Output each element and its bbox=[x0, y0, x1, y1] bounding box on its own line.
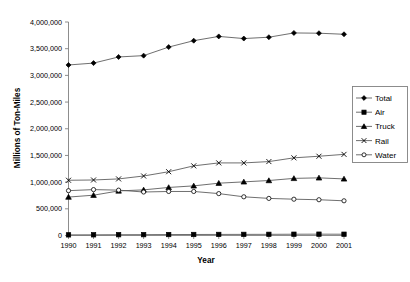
data-point-circle bbox=[167, 189, 171, 193]
x-tick-label: 1995 bbox=[186, 241, 202, 250]
data-point-square bbox=[91, 233, 95, 237]
y-tick-label: 1,000,000 bbox=[30, 178, 62, 187]
y-tick-label: 1,500,000 bbox=[30, 151, 62, 160]
data-point-circle bbox=[142, 190, 146, 194]
legend-label: Air bbox=[375, 108, 385, 117]
y-tick-label: 4,000,000 bbox=[30, 18, 62, 27]
data-point-square bbox=[292, 232, 296, 236]
data-point-square bbox=[362, 110, 366, 114]
legend-label: Truck bbox=[375, 122, 396, 131]
data-point-circle bbox=[242, 195, 246, 199]
data-point-square bbox=[141, 232, 145, 236]
x-tick-label: 1990 bbox=[61, 241, 77, 250]
y-tick-label: 3,500,000 bbox=[30, 44, 62, 53]
data-point-square bbox=[66, 233, 70, 237]
y-tick-label: 0 bbox=[58, 231, 62, 240]
data-point-square bbox=[116, 232, 120, 236]
line-chart: 0500,0001,000,0001,500,0002,000,0002,500… bbox=[0, 0, 410, 282]
x-tick-label: 1997 bbox=[236, 241, 252, 250]
data-point-circle bbox=[317, 198, 321, 202]
data-point-square bbox=[267, 232, 271, 236]
data-point-square bbox=[217, 232, 221, 236]
legend-label: Total bbox=[375, 94, 392, 103]
y-tick-label: 500,000 bbox=[36, 204, 62, 213]
y-tick-label: 2,000,000 bbox=[30, 124, 62, 133]
x-tick-label: 1999 bbox=[286, 241, 302, 250]
x-tick-label: 2000 bbox=[311, 241, 327, 250]
data-point-square bbox=[192, 232, 196, 236]
legend-label: Water bbox=[375, 151, 396, 160]
data-point-square bbox=[317, 232, 321, 236]
x-tick-label: 1996 bbox=[211, 241, 227, 250]
data-point-circle bbox=[292, 197, 296, 201]
legend-label: Rail bbox=[375, 137, 389, 146]
data-point-circle bbox=[91, 187, 95, 191]
data-point-circle bbox=[267, 196, 271, 200]
y-axis-title: Millions of Ton-Miles bbox=[13, 87, 22, 168]
data-point-circle bbox=[192, 189, 196, 193]
data-point-square bbox=[342, 232, 346, 236]
y-tick-label: 3,000,000 bbox=[30, 71, 62, 80]
data-point-square bbox=[166, 232, 170, 236]
data-point-circle bbox=[217, 192, 221, 196]
x-tick-label: 1998 bbox=[261, 241, 277, 250]
x-tick-label: 1991 bbox=[86, 241, 102, 250]
x-tick-label: 1993 bbox=[136, 241, 152, 250]
data-point-circle bbox=[362, 153, 366, 157]
data-point-square bbox=[242, 232, 246, 236]
chart-figure: 0500,0001,000,0001,500,0002,000,0002,500… bbox=[0, 0, 410, 282]
data-point-circle bbox=[66, 189, 70, 193]
x-tick-label: 1994 bbox=[161, 241, 177, 250]
data-point-circle bbox=[342, 199, 346, 203]
data-point-circle bbox=[116, 188, 120, 192]
x-axis-title: Year bbox=[197, 256, 215, 265]
y-tick-label: 2,500,000 bbox=[30, 98, 62, 107]
x-tick-label: 2001 bbox=[336, 241, 352, 250]
chart-legend: TotalAirTruckRailWater bbox=[353, 87, 408, 163]
x-tick-label: 1992 bbox=[111, 241, 127, 250]
